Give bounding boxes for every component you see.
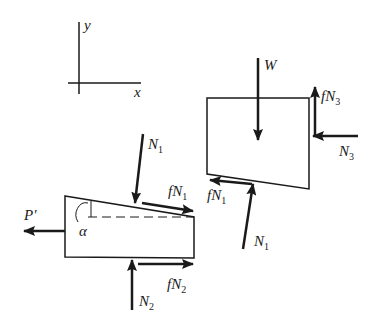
y-axis-label: y <box>82 17 91 33</box>
force-n1-wedge-arrow <box>135 134 143 203</box>
force-w-label: W <box>264 57 278 73</box>
force-n2-label: N2 <box>138 293 154 312</box>
free-body-diagram: y x α P′ N1 fN1 N2 fN2 W fN3 <box>0 0 382 333</box>
force-p-label: P′ <box>23 207 37 223</box>
force-n1-block-arrow <box>243 184 253 249</box>
coordinate-axes: y x <box>68 17 141 100</box>
angle-arc-icon <box>76 203 88 222</box>
force-n1-wedge-label: N1 <box>147 136 163 155</box>
force-n1-block-label: N1 <box>253 233 269 252</box>
angle-alpha-label: α <box>79 223 88 239</box>
force-fn1-block-label: fN1 <box>207 187 226 206</box>
x-axis-label: x <box>133 84 141 100</box>
force-fn3-label: fN3 <box>321 88 340 107</box>
block: W fN3 N3 fN1 N1 <box>207 57 358 252</box>
force-fn1-wedge-label: fN1 <box>168 183 187 202</box>
force-fn1-block-arrow <box>210 180 252 184</box>
force-fn2-label: fN2 <box>167 276 186 295</box>
force-n3-label: N3 <box>338 143 354 162</box>
wedge: α P′ N1 fN1 N2 fN2 <box>23 134 194 312</box>
